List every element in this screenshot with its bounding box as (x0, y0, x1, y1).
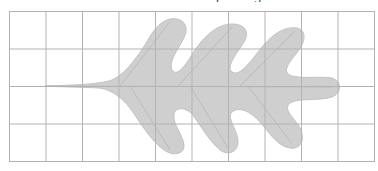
grid-lines (10, 12, 375, 162)
leaf-grid-figure (0, 0, 378, 171)
